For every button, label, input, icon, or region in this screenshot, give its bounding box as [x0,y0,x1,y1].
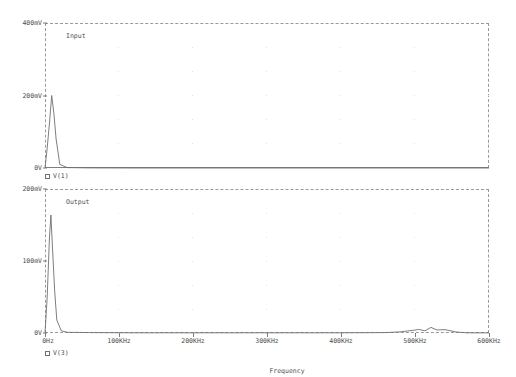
xtick-300khz: 300KHz [255,338,278,345]
input-panel: Input 400mV 200mV 0V V(1) [0,0,516,188]
output-legend[interactable]: V(3) [45,349,69,357]
input-annotation: Input [66,32,86,40]
output-plot-area: Output [45,189,489,333]
input-trace-v1 [45,23,489,169]
input-legend-label: V(1) [53,172,69,180]
output-ytick-100mv: 100mV [10,258,42,265]
xtick-600khz: 600KHz [477,338,500,345]
input-ytick-200mv: 200mV [10,92,42,99]
xtick-0hz: 0Hz [42,338,54,345]
output-ytick-200mv: 200mV [10,186,42,193]
output-trace-v3 [45,189,489,334]
xtick-400khz: 400KHz [329,338,352,345]
input-ytick-400mv: 400mV [10,20,42,27]
square-marker-icon [45,351,50,356]
input-legend[interactable]: V(1) [45,172,69,180]
output-ytick-0v: 0V [10,330,42,337]
input-ytick-mark-400mv [43,23,47,24]
xtick-100khz: 100KHz [107,338,130,345]
x-axis-title: Frequency [269,367,304,375]
input-plot-area: Input [45,23,489,168]
output-panel: Output 200mV 100mV 0V 0Hz 100KHz 200KHz … [0,183,516,377]
xtick-500khz: 500KHz [403,338,426,345]
output-annotation: Output [66,198,89,206]
output-ytick-mark-200mv [43,189,47,190]
output-ytick-mark-100mv [43,261,47,262]
square-marker-icon [45,174,50,179]
input-ytick-0v: 0V [10,165,42,172]
input-ytick-mark-0v [43,168,47,169]
output-legend-label: V(3) [53,349,69,357]
xtick-200khz: 200KHz [181,338,204,345]
spice-plot-window: Input 400mV 200mV 0V V(1) [0,0,516,377]
input-ytick-mark-200mv [43,95,47,96]
